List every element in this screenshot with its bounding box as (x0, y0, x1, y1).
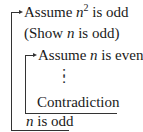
inner-arrow-icon (33, 53, 37, 57)
inner-bracket-vertical (25, 55, 26, 114)
goal-statement: (Show n is odd) (24, 25, 119, 42)
inner-assumption: Assume n is even (38, 47, 143, 64)
outer-conclusion: n is odd (26, 113, 74, 130)
inner-conclusion: Contradiction (37, 94, 120, 111)
outer-arrow-icon (19, 10, 23, 14)
outer-assumption: Assume n2 is odd (24, 4, 129, 21)
outer-bracket-bottom (11, 130, 69, 131)
ellipsis: : : (61, 68, 67, 82)
outer-bracket-vertical (11, 12, 12, 131)
